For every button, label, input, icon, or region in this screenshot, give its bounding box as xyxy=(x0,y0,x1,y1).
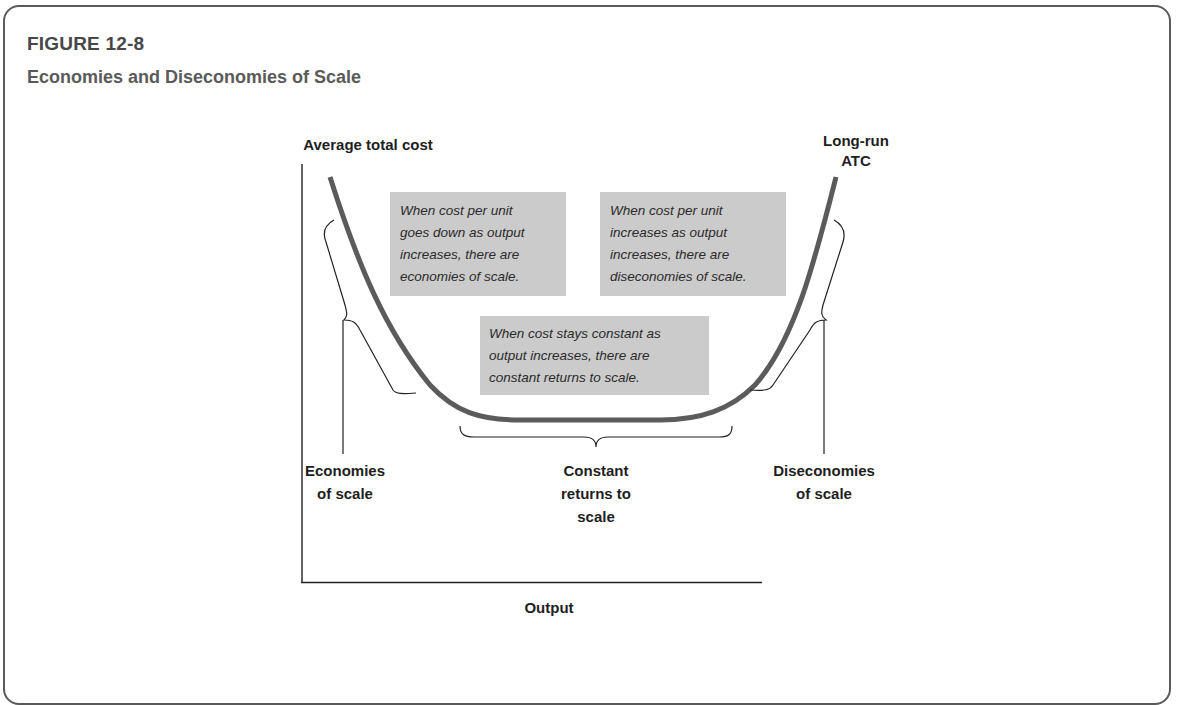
region-label-economies: of scale xyxy=(317,485,373,502)
note-diseconomies: When cost per unit increases as output i… xyxy=(600,192,786,296)
note-economies: When cost per unit goes down as output i… xyxy=(390,192,566,296)
x-axis-label: Output xyxy=(524,599,573,616)
note-line: diseconomies of scale. xyxy=(610,269,747,284)
region-label-economies: Economies xyxy=(305,462,385,479)
y-axis-label: Average total cost xyxy=(303,136,433,153)
note-line: increases as output xyxy=(610,225,728,240)
region-label-constant: Constant xyxy=(564,462,629,479)
note-line: constant returns to scale. xyxy=(489,370,640,385)
region-label-diseconomies: of scale xyxy=(796,485,852,502)
note-constant: When cost stays constant as output incre… xyxy=(480,316,709,395)
region-label-diseconomies: Diseconomies xyxy=(773,462,875,479)
note-line: When cost per unit xyxy=(400,203,514,218)
curve-label: ATC xyxy=(841,152,871,169)
note-line: increases, there are xyxy=(610,247,729,262)
note-line: goes down as output xyxy=(400,225,526,240)
region-label-constant: returns to xyxy=(561,485,631,502)
curve-label: Long-run xyxy=(823,132,889,149)
note-line: economies of scale. xyxy=(400,269,519,284)
note-line: output increases, there are xyxy=(489,348,650,363)
note-line: When cost per unit xyxy=(610,203,724,218)
note-line: increases, there are xyxy=(400,247,519,262)
region-label-constant: scale xyxy=(577,508,615,525)
note-line: When cost stays constant as xyxy=(489,326,661,341)
brace-constant xyxy=(460,426,732,447)
